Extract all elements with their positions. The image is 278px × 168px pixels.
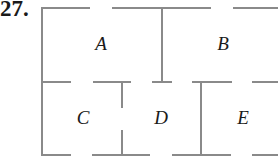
room-label-c: C [77, 107, 90, 128]
room-label-b: B [217, 33, 229, 54]
room-label-e: E [236, 107, 249, 128]
room-label-a: A [93, 33, 107, 54]
room-label-d: D [153, 107, 168, 128]
floor-plan-diagram: ABCDE [0, 0, 278, 168]
walls-group [42, 7, 278, 156]
